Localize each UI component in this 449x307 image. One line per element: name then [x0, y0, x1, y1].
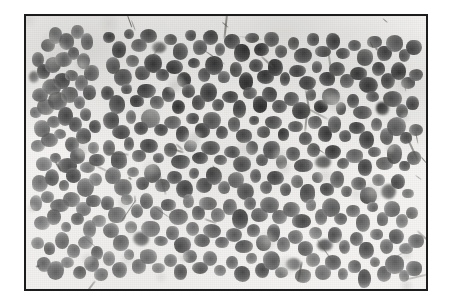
nucleus [203, 112, 221, 129]
stain-debris [238, 36, 262, 41]
nucleus [381, 73, 395, 89]
out-of-focus-cell [139, 103, 161, 124]
stain-debris [158, 173, 167, 196]
out-of-focus-cell [54, 42, 68, 56]
out-of-focus-cell [334, 236, 345, 247]
nucleus [188, 58, 200, 68]
nucleus [91, 246, 103, 260]
nucleus [322, 198, 340, 217]
nucleus [44, 242, 55, 254]
stain-debris [204, 218, 216, 224]
nucleus [325, 145, 340, 159]
nucleus [326, 33, 339, 50]
nucleus [384, 201, 400, 217]
nucleus [367, 36, 381, 48]
nucleus [228, 117, 241, 131]
nucleus [101, 196, 114, 210]
nucleus [211, 208, 224, 221]
stain-debris [85, 280, 97, 289]
nucleus [66, 168, 81, 183]
stain-debris [384, 96, 386, 105]
stain-debris [80, 235, 101, 253]
nucleus [275, 45, 287, 57]
nucleus [235, 240, 253, 253]
nucleus [386, 35, 403, 53]
out-of-focus-cell [27, 203, 38, 214]
nucleus [251, 208, 268, 222]
stain-debris [404, 80, 406, 92]
nucleus [78, 236, 92, 249]
nucleus [377, 46, 392, 62]
nucleus [41, 133, 58, 147]
micrograph-image [26, 16, 426, 289]
nucleus [67, 244, 79, 258]
nucleus [65, 70, 78, 81]
nucleus [399, 270, 409, 282]
stain-debris [131, 21, 136, 31]
nucleus [218, 71, 230, 83]
nucleus [206, 167, 222, 185]
nucleus [376, 157, 393, 170]
nucleus [329, 62, 345, 76]
nucleus [218, 181, 230, 194]
nucleus [283, 202, 300, 217]
nucleus [103, 112, 119, 128]
screenshot-canvas [0, 0, 449, 307]
stain-debris [405, 135, 419, 161]
nucleus [55, 52, 72, 66]
stain-debris [416, 175, 422, 180]
out-of-focus-cell [256, 230, 278, 252]
nucleus [131, 204, 142, 218]
nucleus [166, 60, 183, 74]
nucleus [387, 117, 406, 136]
nucleus [286, 147, 300, 161]
nucleus [246, 253, 257, 263]
nucleus [340, 74, 354, 88]
nucleus [162, 87, 174, 102]
nucleus [306, 89, 316, 100]
nucleus [406, 40, 422, 56]
nucleus [109, 95, 126, 114]
nucleus [262, 87, 277, 102]
nucleus [288, 230, 303, 243]
stain-debris [304, 105, 330, 120]
nucleus [183, 194, 194, 208]
nucleus [203, 251, 217, 266]
nucleus [257, 70, 274, 84]
nucleus [29, 71, 40, 83]
out-of-focus-cell [117, 196, 131, 210]
nucleus [298, 241, 313, 257]
nucleus [256, 154, 268, 166]
nucleus [112, 125, 130, 139]
nucleus [320, 183, 334, 195]
nucleus [372, 174, 384, 186]
nucleus [49, 27, 63, 44]
nucleus [234, 266, 250, 282]
nucleus [121, 84, 132, 95]
nucleus [103, 223, 119, 238]
nucleus [346, 149, 363, 162]
nucleus [216, 126, 227, 139]
nucleus [406, 96, 419, 110]
nucleus [174, 237, 191, 253]
nucleus [112, 41, 126, 58]
nucleus [260, 181, 272, 194]
nucleus [223, 199, 237, 215]
nucleus [182, 84, 195, 98]
nucleus [74, 96, 85, 109]
nucleus [336, 48, 350, 58]
nucleus [30, 107, 41, 118]
film-grain-overlay [26, 16, 426, 289]
nucleus [286, 258, 301, 270]
nucleus [45, 57, 61, 73]
nucleus [130, 95, 144, 107]
nucleus [103, 140, 115, 155]
nucleus [192, 262, 208, 274]
stain-debris [304, 106, 309, 133]
out-of-focus-cell [142, 160, 161, 178]
nucleus [196, 178, 212, 194]
out-of-focus-cell [400, 248, 413, 261]
nucleus [89, 120, 101, 134]
nucleus [47, 209, 61, 226]
nucleus [150, 96, 164, 109]
